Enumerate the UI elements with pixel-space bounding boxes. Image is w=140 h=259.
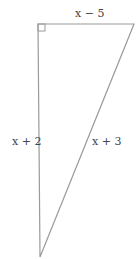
label-top-side: x − 5 — [75, 7, 104, 20]
label-left-side: x + 2 — [12, 135, 41, 148]
right-angle-marker — [38, 24, 45, 31]
triangle-diagram: x − 5 x + 2 x + 3 — [0, 0, 140, 259]
label-hypotenuse: x + 3 — [92, 135, 121, 148]
